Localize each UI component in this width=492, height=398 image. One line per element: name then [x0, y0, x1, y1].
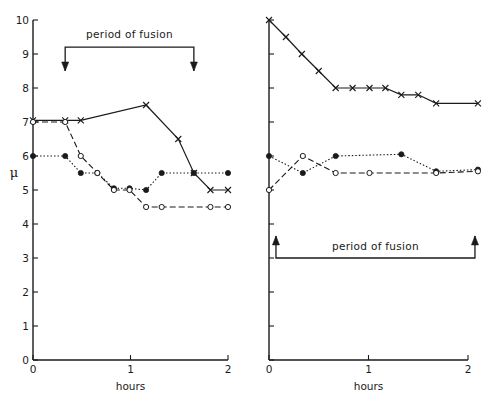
filled-circle-marker [225, 170, 230, 175]
figure: 012345678910012hoursμperiod of fusion 01… [0, 0, 492, 398]
y-tick-label: 7 [22, 116, 29, 128]
open-circle-marker [95, 170, 100, 175]
x-axis-label: hours [116, 380, 146, 392]
open-circle-marker [30, 119, 35, 124]
filled-circle-marker [144, 187, 149, 192]
cross-marker [283, 34, 289, 40]
cross-marker [299, 51, 305, 57]
x-tick-label: 1 [365, 363, 372, 375]
x-tick-label: 0 [266, 363, 273, 375]
open-circle-marker [434, 170, 439, 175]
series-line [269, 20, 478, 103]
open-circle-marker [111, 187, 116, 192]
arrow-up-icon [272, 236, 279, 245]
open-circle-marker [144, 204, 149, 209]
y-tick-label: 10 [16, 14, 29, 26]
y-tick-label: 0 [22, 354, 29, 366]
y-tick-label: 8 [22, 82, 29, 94]
arrow-down-icon [62, 62, 69, 71]
cross-marker [175, 136, 181, 142]
x-tick-label: 2 [225, 363, 232, 375]
open-circle-marker [475, 169, 480, 174]
open-circle-marker [367, 170, 372, 175]
filled-circle-marker [159, 170, 164, 175]
y-tick-label: 3 [22, 252, 29, 264]
filled-circle-marker [300, 170, 305, 175]
open-circle-marker [300, 153, 305, 158]
cross-marker [316, 68, 322, 74]
y-tick-label: 5 [22, 184, 29, 196]
x-axis-label: hours [354, 380, 384, 392]
filled-circle-marker [30, 153, 35, 158]
y-tick-label: 9 [22, 48, 29, 60]
open-circle-marker [225, 204, 230, 209]
y-tick-label: 4 [22, 218, 29, 230]
filled-circle-marker [266, 153, 271, 158]
period-of-fusion-label: period of fusion [86, 28, 173, 40]
x-tick-label: 0 [30, 363, 37, 375]
open-circle-marker [127, 187, 132, 192]
open-circle-marker [63, 119, 68, 124]
filled-circle-marker [78, 170, 83, 175]
x-tick-label: 2 [465, 363, 472, 375]
arrow-up-icon [471, 236, 478, 245]
right-panel: 012hoursperiod of fusion [266, 17, 481, 392]
period-of-fusion-label: period of fusion [332, 240, 419, 252]
open-circle-marker [159, 204, 164, 209]
y-tick-label: 1 [22, 320, 29, 332]
x-tick-label: 1 [127, 363, 134, 375]
y-axis-label: μ [10, 165, 18, 180]
filled-circle-marker [333, 153, 338, 158]
series-line [33, 156, 228, 190]
series-line [33, 122, 228, 207]
fusion-bracket [65, 47, 194, 71]
chart-svg: 012345678910012hoursμperiod of fusion 01… [0, 0, 492, 398]
open-circle-marker [266, 187, 271, 192]
filled-circle-marker [191, 170, 196, 175]
filled-circle-marker [399, 152, 404, 157]
arrow-down-icon [190, 62, 197, 71]
y-tick-label: 6 [22, 150, 29, 162]
y-tick-label: 2 [22, 286, 29, 298]
open-circle-marker [333, 170, 338, 175]
filled-circle-marker [63, 153, 68, 158]
open-circle-marker [208, 204, 213, 209]
left-panel: 012345678910012hoursμperiod of fusion [10, 14, 232, 392]
open-circle-marker [78, 153, 83, 158]
